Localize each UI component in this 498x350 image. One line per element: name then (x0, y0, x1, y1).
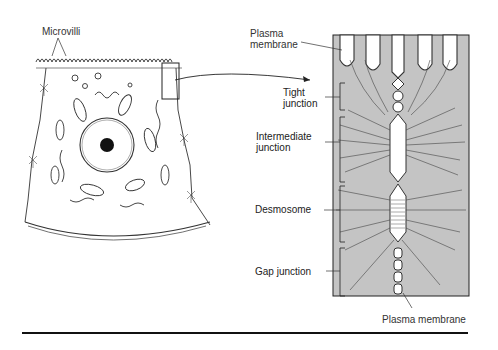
enlarged-panel (333, 35, 469, 296)
label-tight-junction: Tight junction (283, 87, 317, 109)
zoom-arrow (175, 74, 310, 80)
diagram-canvas (0, 0, 498, 350)
label-plasma-membrane-top: Plasma membrane (250, 28, 298, 50)
label-microvilli: Microvilli (42, 26, 80, 37)
label-desmosome: Desmosome (255, 204, 311, 215)
label-gap-junction: Gap junction (255, 266, 311, 277)
label-plasma-membrane-bottom: Plasma membrane (382, 314, 466, 325)
microvilli-leader (52, 38, 66, 56)
label-intermediate-junction: Intermediate junction (256, 131, 312, 153)
cell-drawing (25, 59, 210, 240)
